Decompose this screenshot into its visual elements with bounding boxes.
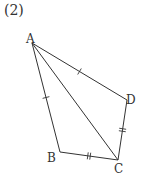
vertex-label-d: D [126,93,136,107]
quadrilateral-diagram: A B C D [0,0,146,181]
vertex-label-c: C [114,162,123,176]
edge-ac [32,43,118,160]
equal-length-tick [78,68,82,74]
equal-length-tick [90,153,91,160]
edge-bc [60,152,118,160]
equal-length-tick [119,131,126,132]
equal-length-tick [119,128,126,129]
edge-cd [118,100,127,160]
vertex-label-a: A [25,32,35,46]
equal-length-tick [87,152,88,159]
vertex-label-b: B [47,151,56,165]
